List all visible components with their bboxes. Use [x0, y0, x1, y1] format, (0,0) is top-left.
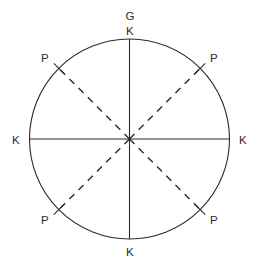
label-top-inner-k: K — [126, 25, 134, 37]
label-right-k: K — [239, 134, 247, 146]
circle-diagram: G K K K K P P P P — [0, 0, 257, 267]
diagonal-lower-right-line — [130, 139, 201, 210]
diagonal-upper-left-line — [59, 68, 130, 139]
label-upper-left-p: P — [41, 52, 49, 64]
diagonal-lower-left-line — [59, 139, 130, 210]
diagram-canvas: G K K K K P P P P — [0, 0, 257, 267]
label-left-k: K — [12, 134, 20, 146]
diagonal-upper-right-line — [130, 68, 201, 139]
label-top-outer-g: G — [125, 10, 134, 22]
label-lower-right-p: P — [210, 214, 218, 226]
label-lower-left-p: P — [41, 214, 49, 226]
label-upper-right-p: P — [210, 52, 218, 64]
label-bottom-k: K — [126, 246, 134, 258]
